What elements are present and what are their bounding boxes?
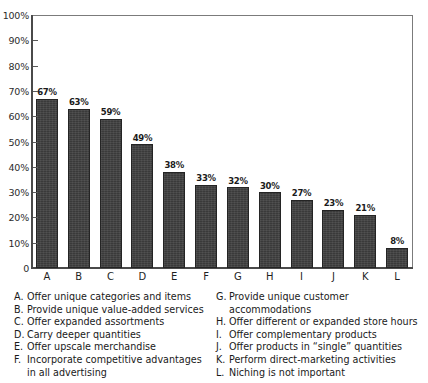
bar-value-label: 23% — [324, 198, 343, 208]
bar-c[interactable] — [100, 119, 122, 268]
y-axis-tick-label: 50% — [1, 136, 29, 147]
bar-b[interactable] — [68, 109, 90, 268]
y-axis-tick-label: 60% — [1, 111, 29, 122]
y-axis-tick-label: 70% — [1, 85, 29, 96]
legend-item-label: Offer upscale merchandise — [27, 341, 214, 354]
legend-item-i: I.Offer complementary products — [216, 329, 428, 342]
x-axis-label-g: G — [222, 271, 254, 282]
legend-item-e: E.Offer upscale merchandise — [14, 341, 214, 354]
bar-value-label: 38% — [164, 160, 183, 170]
legend-item-key: E. — [14, 341, 27, 354]
legend-item-key: F. — [14, 354, 27, 367]
x-axis-label-l: L — [381, 271, 413, 282]
legend-item-k: K.Perform direct-marketing activities — [216, 354, 428, 367]
x-axis-label-h: H — [254, 271, 286, 282]
legend-item-label: Provide unique value-added services — [27, 304, 214, 317]
x-axis-label-a: A — [31, 271, 63, 282]
y-axis-tick-mark — [33, 167, 38, 168]
legend-item-key: C. — [14, 316, 27, 329]
x-axis-label-e: E — [158, 271, 190, 282]
bar-slot: 32% — [222, 15, 254, 268]
legend-item-f: F.Incorporate competitive advantages — [14, 354, 214, 367]
legend-item-key: I. — [216, 329, 229, 342]
legend-item-c: C.Offer expanded assortments — [14, 316, 214, 329]
legend-item-key: D. — [14, 329, 27, 342]
y-axis-tick-mark — [33, 91, 38, 92]
x-axis-label-f: F — [190, 271, 222, 282]
x-axis-label-k: K — [349, 271, 381, 282]
y-axis-tick-mark — [33, 66, 38, 67]
y-axis-tick-label: 0 — [1, 263, 29, 274]
y-axis-tick-label: 30% — [1, 187, 29, 198]
x-axis-label-j: J — [318, 271, 350, 282]
legend-item-key: H. — [216, 316, 229, 329]
bar-value-label: 30% — [260, 181, 279, 191]
legend-item-a: A.Offer unique categories and items — [14, 291, 214, 304]
legend-item-label: Niching is not important — [229, 367, 428, 380]
y-axis-tick-label: 10% — [1, 237, 29, 248]
bar-k[interactable] — [354, 215, 376, 268]
y-axis-tick-label: 100% — [1, 10, 29, 21]
y-axis-tick-mark — [33, 217, 38, 218]
bar-value-label: 63% — [69, 97, 88, 107]
bar-g[interactable] — [227, 187, 249, 268]
legend-item-label: Offer products in “single” quantities — [229, 341, 428, 354]
legend-item-key: A. — [14, 291, 27, 304]
bar-j[interactable] — [322, 210, 344, 268]
bar-value-label: 8% — [390, 236, 404, 246]
y-axis-tick-mark — [33, 40, 38, 41]
bar-slot: 59% — [95, 15, 127, 268]
bar-slot: 33% — [190, 15, 222, 268]
bar-slot: 21% — [349, 15, 381, 268]
y-axis-tick-label: 20% — [1, 212, 29, 223]
legend-item-key: J. — [216, 341, 229, 354]
bar-value-label: 33% — [196, 173, 215, 183]
bar-a[interactable] — [36, 99, 58, 269]
x-axis-label-c: C — [95, 271, 127, 282]
legend-item-label: Incorporate competitive advantages — [27, 354, 214, 367]
x-axis-labels: ABCDEFGHIJKL — [31, 271, 413, 289]
legend-item-f-continuation: in all advertising — [14, 367, 214, 380]
y-axis-tick-label: 80% — [1, 60, 29, 71]
chart-page: 010%20%30%40%50%60%70%80%90%100% 67%63%5… — [0, 0, 428, 383]
bar-value-label: 49% — [133, 133, 152, 143]
legend-item-j: J.Offer products in “single” quantities — [216, 341, 428, 354]
legend-column-left: A.Offer unique categories and itemsB.Pro… — [14, 291, 214, 379]
legend-column-right: G.Provide unique customer accommodations… — [216, 291, 428, 379]
bar-i[interactable] — [291, 200, 313, 268]
y-axis-tick-mark — [33, 192, 38, 193]
bars-container: 67%63%59%49%38%33%32%30%27%23%21%8% — [31, 15, 413, 268]
legend-item-b: B.Provide unique value-added services — [14, 304, 214, 317]
legend-item-label: Offer expanded assortments — [27, 316, 214, 329]
bar-slot: 49% — [127, 15, 159, 268]
x-axis-label-d: D — [127, 271, 159, 282]
x-axis-label-b: B — [63, 271, 95, 282]
legend-item-label: Offer different or expanded store hours — [229, 316, 428, 329]
legend-item-label: Perform direct-marketing activities — [229, 354, 428, 367]
bar-slot: 38% — [158, 15, 190, 268]
legend-item-label: Offer unique categories and items — [27, 291, 214, 304]
bar-l[interactable] — [386, 248, 408, 268]
bar-slot: 23% — [318, 15, 350, 268]
bar-slot: 30% — [254, 15, 286, 268]
legend-item-l: L.Niching is not important — [216, 367, 428, 380]
legend-item-d: D.Carry deeper quantities — [14, 329, 214, 342]
bar-value-label: 27% — [292, 188, 311, 198]
x-axis-label-i: I — [286, 271, 318, 282]
legend-item-key: B. — [14, 304, 27, 317]
bar-d[interactable] — [131, 144, 153, 268]
bar-chart: 010%20%30%40%50%60%70%80%90%100% 67%63%5… — [0, 0, 428, 290]
bar-slot: 27% — [286, 15, 318, 268]
legend: A.Offer unique categories and itemsB.Pro… — [0, 291, 428, 383]
bar-f[interactable] — [195, 185, 217, 268]
bar-value-label: 32% — [228, 176, 247, 186]
bar-h[interactable] — [259, 192, 281, 268]
bar-value-label: 67% — [37, 87, 56, 97]
legend-item-label: Carry deeper quantities — [27, 329, 214, 342]
legend-item-label: Offer complementary products — [229, 329, 428, 342]
bar-value-label: 59% — [101, 107, 120, 117]
y-axis-tick-label: 90% — [1, 35, 29, 46]
y-axis-tick-label: 40% — [1, 161, 29, 172]
bar-e[interactable] — [163, 172, 185, 268]
legend-item-key: L. — [216, 367, 229, 380]
